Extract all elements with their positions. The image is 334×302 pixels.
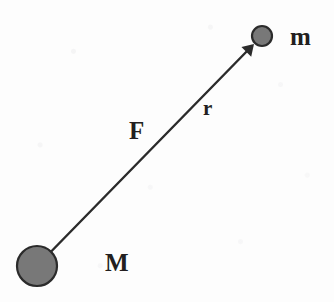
- small-mass-body: [252, 26, 272, 46]
- force-separation-line: [37, 46, 252, 266]
- large-mass-body: [17, 246, 57, 286]
- distance-label-r: r: [203, 98, 212, 119]
- gravitation-figure: M m F r: [0, 0, 334, 302]
- diagram-vector-layer: [0, 0, 334, 302]
- mass-label-M: M: [105, 250, 129, 275]
- mass-label-m: m: [290, 24, 311, 49]
- force-label-F: F: [129, 118, 144, 143]
